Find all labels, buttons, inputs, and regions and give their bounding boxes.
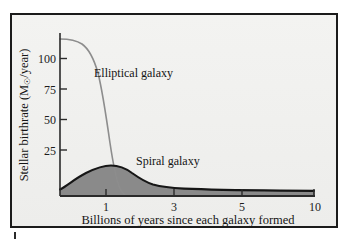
svg-text:Stellar birthrate (M☉/year): Stellar birthrate (M☉/year): [17, 49, 32, 182]
y-axis-title-prefix: Stellar birthrate (M: [17, 85, 31, 182]
y-tick-label-100: 100: [38, 52, 56, 66]
y-tick-label-75: 75: [44, 83, 56, 97]
stellar-birthrate-chart: 100 75 50 25 1 3 5 10 Billions of years …: [12, 15, 336, 226]
x-axis-title: Billions of years since each galaxy form…: [81, 213, 295, 226]
x-tick-label-3: 3: [171, 200, 177, 214]
page-margin-tick-icon: [14, 232, 16, 239]
figure-root: 100 75 50 25 1 3 5 10 Billions of years …: [0, 0, 349, 243]
y-axis-title-suffix: /year): [17, 49, 31, 78]
x-tick-label-1: 1: [103, 200, 109, 214]
elliptical-galaxy-label: Elliptical galaxy: [94, 66, 173, 80]
figure-frame: 100 75 50 25 1 3 5 10 Billions of years …: [10, 13, 338, 228]
y-axis-title: Stellar birthrate (M☉/year): [17, 49, 32, 182]
y-tick-label-50: 50: [44, 113, 56, 127]
y-tick-label-25: 25: [44, 144, 56, 158]
y-axis-ticks: [60, 59, 67, 151]
x-tick-label-10: 10: [309, 200, 321, 214]
x-tick-label-5: 5: [239, 200, 245, 214]
sun-symbol-icon: ☉: [23, 78, 32, 85]
spiral-galaxy-label: Spiral galaxy: [136, 154, 200, 168]
